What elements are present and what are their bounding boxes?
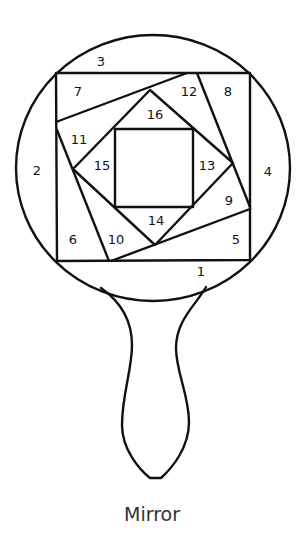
piece-label-4: 4 [264, 164, 272, 179]
mirror-diagram: 1 2 3 4 5 6 7 8 9 10 11 12 13 14 15 16 M… [0, 0, 304, 541]
outer-square [56, 73, 250, 261]
piece-label-14: 14 [148, 213, 165, 228]
piece-label-12: 12 [181, 84, 198, 99]
piece-label-8: 8 [224, 84, 232, 99]
piece-label-3: 3 [97, 54, 105, 69]
piece-label-9: 9 [225, 193, 233, 208]
figure-caption: Mirror [0, 503, 304, 525]
piece-label-10: 10 [108, 232, 125, 247]
piece-label-13: 13 [199, 158, 216, 173]
piece-label-2: 2 [33, 163, 41, 178]
mirror-drawing: 1 2 3 4 5 6 7 8 9 10 11 12 13 14 15 16 [0, 0, 304, 541]
piece-label-16: 16 [147, 107, 164, 122]
piece-label-15: 15 [94, 158, 111, 173]
piece-label-11: 11 [71, 132, 88, 147]
inner-square [115, 129, 193, 207]
piece-label-7: 7 [74, 84, 82, 99]
piece-label-1: 1 [197, 264, 205, 279]
piece-label-6: 6 [69, 232, 77, 247]
mirror-handle [101, 287, 206, 478]
piece-label-5: 5 [232, 232, 240, 247]
